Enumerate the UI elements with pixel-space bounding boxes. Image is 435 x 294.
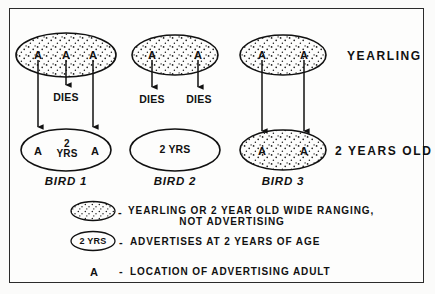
- legend-text-1-line1: YEARLING OR 2 YEAR OLD WIDE RANGING,: [128, 205, 374, 216]
- bird1-yearling-marker-1: A: [34, 49, 42, 61]
- bird1-twoyear-marker-right: A: [91, 145, 99, 157]
- bird2-caption: BIRD 2: [154, 175, 197, 187]
- bird1-yearling-marker-3: A: [89, 49, 97, 61]
- bird2-dies-label-right: DIES: [186, 93, 212, 105]
- bird3-yearling-marker-2: A: [300, 49, 308, 61]
- bird1-dies-label: DIES: [53, 91, 79, 103]
- legend-key-3-letter: A: [90, 266, 98, 278]
- legend-text-3: LOCATION OF ADVERTISING ADULT: [130, 266, 331, 277]
- bird3-yearling-ellipse: [240, 35, 326, 75]
- bird1-caption: BIRD 1: [45, 175, 88, 187]
- legend-dash-2: -: [119, 236, 123, 248]
- figure-canvas: A A A DIES A 2 YRS A BIRD 1 A A DIES DIE…: [0, 0, 435, 294]
- bird2-twoyear-center-text: 2 YRS: [159, 145, 190, 155]
- legend-text-1-line2: NOT ADVERTISING: [179, 216, 284, 227]
- bird1-yearling-marker-2: A: [62, 49, 70, 61]
- legend-dash-3: -: [119, 265, 123, 277]
- bird3-twoyear-marker-2: A: [300, 145, 308, 157]
- bird2-yearling-marker-2: A: [194, 49, 202, 61]
- row-label-two-years-old: 2 YEARS OLD: [335, 144, 432, 158]
- bird3-twoyear-marker-1: A: [258, 145, 266, 157]
- bird3-twoyear-ellipse: [240, 130, 326, 170]
- bird1-twoyear-marker-left: A: [34, 145, 42, 157]
- legend-dash-1: -: [118, 206, 122, 218]
- row-label-yearling: YEARLING: [347, 49, 422, 63]
- legend-text-2: ADVERTISES AT 2 YEARS OF AGE: [130, 236, 320, 247]
- bird3-caption: BIRD 3: [262, 175, 305, 187]
- legend-stippled-ellipse-key: [71, 202, 115, 221]
- bird2-yearling-marker-1: A: [148, 49, 156, 61]
- bird2-yearling-ellipse: [132, 35, 218, 75]
- bird3-yearling-marker-1: A: [258, 49, 266, 61]
- bird1-twoyear-center-line2: YRS: [50, 149, 84, 159]
- bird2-dies-label-left: DIES: [139, 93, 165, 105]
- legend-key-2-yrs: 2 YRS: [80, 236, 107, 246]
